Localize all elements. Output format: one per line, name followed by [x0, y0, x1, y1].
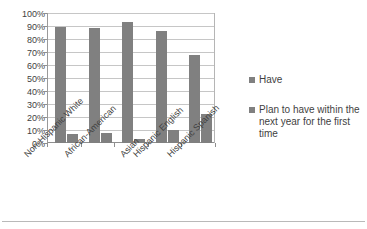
bar-have-asian	[122, 22, 133, 143]
y-tick-label: 70%	[3, 49, 45, 58]
y-tick-label: 60%	[3, 62, 45, 71]
page-divider	[2, 221, 365, 222]
legend-swatch-icon	[249, 107, 255, 113]
x-tick-mark	[215, 143, 216, 147]
legend-entry-have[interactable]: Have	[249, 74, 364, 86]
bar-group-asian	[115, 13, 149, 143]
plot-area	[47, 13, 215, 143]
x-tick-mark	[47, 143, 48, 147]
legend-label: Have	[259, 74, 282, 86]
y-tick-label: 40%	[3, 88, 45, 97]
y-tick-label: 80%	[3, 36, 45, 45]
y-tick-label: 100%	[3, 10, 45, 19]
bar-chart-figure: 100% 90% 80% 70% 60% 50% 40% 30% 20% 10%…	[0, 0, 367, 229]
legend-swatch-icon	[249, 77, 255, 83]
legend-entry-plan-to-have[interactable]: Plan to have within the next year for th…	[249, 104, 364, 140]
legend-label: Plan to have within the next year for th…	[259, 104, 364, 140]
y-tick-label: 20%	[3, 114, 45, 123]
y-tick-label: 50%	[3, 75, 45, 84]
bar-plan-african-american	[101, 133, 112, 143]
y-tick-label: 90%	[3, 23, 45, 32]
y-tick-label: 30%	[3, 101, 45, 110]
x-tick-mark	[114, 143, 115, 147]
chart-legend: Have Plan to have within the next year f…	[249, 74, 364, 158]
